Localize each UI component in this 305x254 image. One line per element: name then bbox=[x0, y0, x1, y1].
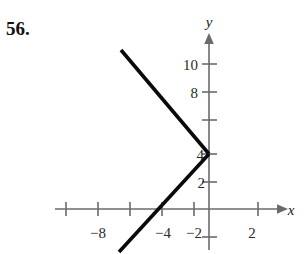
x-axis-label: x bbox=[287, 202, 295, 218]
x-axis-arrowhead bbox=[277, 204, 288, 214]
x-tick-label-2: 2 bbox=[248, 225, 256, 241]
y-tick-label-10: 10 bbox=[183, 57, 198, 73]
y-tick-label-2: 2 bbox=[198, 175, 206, 191]
x-tick-label--4: −4 bbox=[155, 225, 171, 241]
coordinate-graph: −8 −4 −2 2 10 8 4 2 x y bbox=[0, 0, 305, 254]
graph-curve bbox=[119, 50, 209, 252]
figure-page: 56. bbox=[0, 0, 305, 254]
x-tick-label--8: −8 bbox=[90, 225, 106, 241]
y-axis-arrowhead bbox=[204, 33, 214, 44]
x-tick-labels: −8 −4 −2 2 bbox=[90, 225, 256, 241]
y-tick-label-8: 8 bbox=[191, 85, 199, 101]
axes-group bbox=[55, 33, 288, 250]
x-tick-label--2: −2 bbox=[186, 225, 202, 241]
y-axis-label: y bbox=[204, 14, 213, 30]
